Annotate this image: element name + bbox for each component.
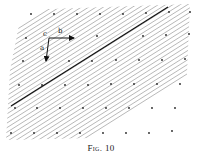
axis-a-arrow (46, 38, 49, 61)
axis-b-label: b (58, 27, 63, 35)
axis-c-label: c (43, 30, 47, 38)
figure-caption: Fig. 10 (0, 143, 202, 153)
axis-a-label: a (40, 44, 44, 52)
caption-number: 10 (105, 143, 115, 153)
lattice-diagram: c b a (0, 0, 202, 163)
lattice-plane-line (11, 7, 168, 106)
caption-prefix: Fig. (88, 143, 103, 153)
hatch-lines (0, 0, 202, 163)
lattice-figure: c b a Fig. 10 (0, 0, 202, 163)
lattice-points (10, 11, 191, 134)
